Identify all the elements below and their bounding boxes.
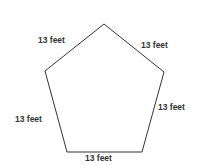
side-label-top-left: 13 feet: [38, 35, 65, 45]
side-label-top-right: 13 feet: [141, 40, 168, 50]
side-label-left: 13 feet: [15, 114, 42, 124]
side-label-bottom: 13 feet: [85, 153, 112, 163]
pentagon-diagram: 13 feet 13 feet 13 feet 13 feet 13 feet: [0, 0, 207, 165]
side-label-right: 13 feet: [158, 102, 185, 112]
